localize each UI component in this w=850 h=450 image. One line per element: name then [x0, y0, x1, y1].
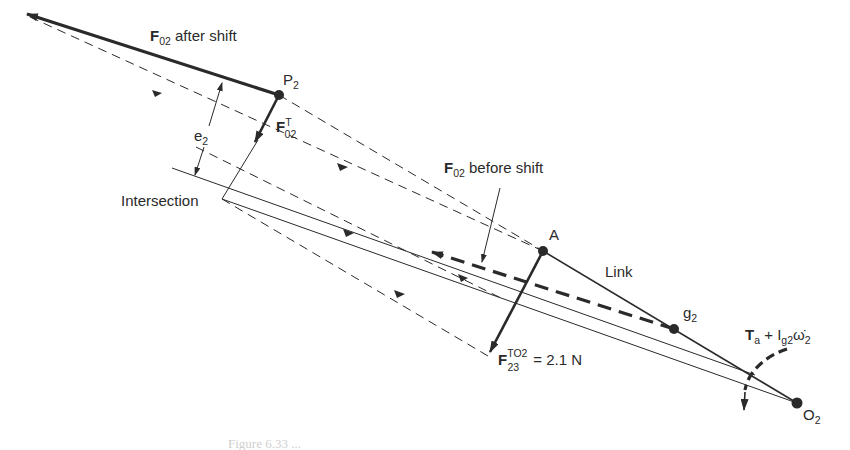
arrowhead-icon — [337, 163, 348, 171]
f23-vector — [490, 251, 543, 352]
point-p2 — [274, 90, 284, 100]
arrowhead-icon — [394, 290, 405, 298]
point-o2 — [792, 398, 803, 409]
dashed-direction-arrows — [152, 90, 468, 298]
label-f02-before-shift: F02 before shift — [444, 159, 544, 179]
label-f23: FTO223 = 2.1 N — [498, 347, 582, 373]
label-f02-t: FT02 — [276, 116, 296, 140]
label-o2: O2 — [803, 406, 821, 426]
construction-lines — [30, 17, 543, 356]
label-e2: e2 — [194, 127, 208, 147]
dashed-line-bottom — [222, 199, 488, 356]
figure-caption: Figure 6.33 ... — [228, 436, 301, 450]
f02-before-shift-pointer — [482, 188, 500, 262]
label-f02-after-shift: F02 after shift — [150, 27, 238, 47]
arrowhead-icon — [152, 90, 162, 97]
perpendicular-offset — [222, 140, 258, 199]
link-force-diagram: F02 after shift P2 FT02 e2 Intersection … — [0, 0, 850, 450]
label-torque: Ta + Ig2ω̇2 — [745, 326, 811, 346]
point-g2 — [669, 324, 679, 334]
label-a: A — [549, 226, 559, 243]
line-of-action-upper — [172, 168, 755, 375]
torque-arrow — [744, 392, 745, 410]
label-intersection: Intersection — [121, 192, 199, 209]
label-g2: g2 — [683, 304, 697, 324]
label-p2: P2 — [283, 71, 299, 91]
label-link: Link — [605, 263, 633, 280]
point-a — [538, 246, 548, 256]
f02-before-shift-vector — [432, 252, 674, 329]
resultant-lines — [172, 140, 797, 403]
